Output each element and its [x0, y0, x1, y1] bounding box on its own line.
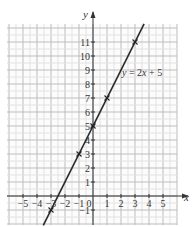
svg-text:7: 7	[85, 93, 90, 104]
svg-text:1: 1	[105, 198, 110, 209]
svg-text:11: 11	[80, 37, 90, 48]
graph: −5−4−3−2−1012345−11234567891011 y = 2x +…	[0, 0, 194, 227]
y-axis-label: y	[82, 8, 88, 20]
svg-text:−5: −5	[18, 198, 29, 209]
equation-label: y = 2x + 5	[121, 67, 162, 78]
svg-text:3: 3	[133, 198, 138, 209]
svg-text:3: 3	[85, 149, 90, 160]
x-axis-label: x	[183, 191, 189, 203]
svg-text:8: 8	[85, 79, 90, 90]
svg-text:5: 5	[161, 198, 166, 209]
svg-text:−4: −4	[32, 198, 43, 209]
svg-text:−1: −1	[79, 205, 90, 216]
svg-text:4: 4	[147, 198, 152, 209]
svg-text:9: 9	[85, 65, 90, 76]
svg-text:6: 6	[85, 107, 90, 118]
svg-text:5: 5	[85, 121, 90, 132]
svg-text:2: 2	[119, 198, 124, 209]
svg-text:10: 10	[80, 51, 90, 62]
svg-text:2: 2	[85, 163, 90, 174]
svg-text:1: 1	[85, 177, 90, 188]
svg-text:−2: −2	[60, 198, 71, 209]
